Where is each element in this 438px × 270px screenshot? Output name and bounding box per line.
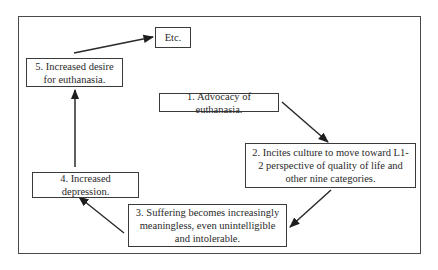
node-4-depression: 4. Increased depression. [32, 172, 139, 198]
node-4-label: 4. Increased depression. [37, 172, 134, 198]
arrow-3-to-4 [79, 197, 124, 233]
node-2-label: 2. Incites culture to move toward L1-2 p… [250, 146, 411, 185]
node-1-advocacy: 1. Advocacy of euthanasia. [159, 93, 279, 112]
node-3-suffering: 3. Suffering becomes increasingly meanin… [128, 204, 287, 247]
node-3-label: 3. Suffering becomes increasingly meanin… [133, 206, 282, 245]
node-5-increased-desire: 5. Increased desire for euthanasia. [26, 58, 123, 87]
node-2-incites-culture: 2. Incites culture to move toward L1-2 p… [245, 143, 416, 188]
arrow-2-to-3 [290, 190, 331, 227]
arrow-5-to-etc [74, 37, 153, 53]
node-1-label: 1. Advocacy of euthanasia. [164, 90, 274, 116]
node-5-label: 5. Increased desire for euthanasia. [31, 60, 118, 86]
node-etc: Etc. [155, 27, 191, 48]
node-etc-label: Etc. [165, 31, 182, 44]
arrow-1-to-2 [282, 102, 328, 142]
